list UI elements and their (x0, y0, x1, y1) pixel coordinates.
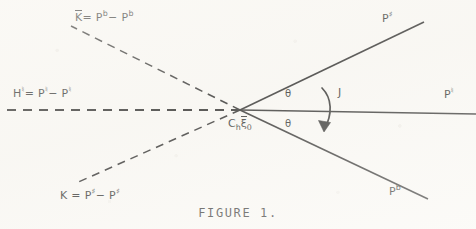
k-sharp-term2-sup: ♯ (116, 187, 120, 196)
k-sharp-term2-base: P (109, 189, 116, 202)
k-tilde-symbol: K (75, 12, 83, 23)
k-sharp-equals: = (71, 189, 81, 202)
ray-label-right: P♮ (444, 89, 453, 100)
figure-container: K= Pb− Pb H♮= P♮− P♮ K = P♯− P♯ Chξ0 θ θ… (0, 0, 476, 229)
ray-lower-right-sup: b (396, 183, 401, 192)
ray-right-base: P (444, 88, 451, 101)
k-sharp-minus: − (96, 189, 106, 202)
ray-upper-right-solid (240, 22, 424, 110)
h-natural-lhs: H (13, 87, 22, 100)
vertex-xi: ξ (241, 118, 247, 129)
h-natural-term1-base: P (38, 87, 45, 100)
angle-label-theta-upper: θ (285, 89, 291, 99)
vertex-label: Chξ0 (228, 118, 252, 129)
k-tilde-minus: − (108, 11, 118, 24)
horizontal-axis-solid (240, 110, 476, 114)
ray-label-lower-right: Pb (389, 186, 401, 197)
ray-lower-left-dashed (74, 110, 240, 184)
ray-upper-left-dashed (71, 26, 240, 110)
ray-right-sup: ♮ (451, 86, 454, 95)
angle-label-theta-lower: θ (285, 119, 291, 129)
k-tilde-equals: = (83, 11, 93, 24)
ray-upper-right-sup: ♯ (389, 10, 393, 19)
rotation-arrowhead (319, 121, 331, 133)
ray-lower-right-base: P (389, 185, 396, 198)
k-sharp-lhs: K (60, 189, 68, 202)
h-natural-minus: − (48, 87, 58, 100)
rotation-label-j: J (338, 87, 341, 98)
ray-label-upper-right: P♯ (382, 13, 392, 24)
k-tilde-term1-base: P (96, 11, 103, 24)
equation-h-natural: H♮= P♮− P♮ (13, 88, 72, 99)
h-natural-equals: = (25, 87, 35, 100)
vertex-c: C (228, 117, 236, 130)
vertex-xi-sub: 0 (247, 123, 252, 132)
h-natural-term2-sup: ♮ (68, 85, 71, 94)
equation-k-sharp: K = P♯− P♯ (60, 190, 120, 201)
k-sharp-term1-base: P (85, 189, 92, 202)
figure-caption: FIGURE 1. (0, 206, 476, 220)
k-tilde-term2-sup: b (128, 9, 133, 18)
equation-k-tilde: K= Pb− Pb (75, 12, 134, 23)
ray-upper-right-base: P (382, 12, 389, 25)
